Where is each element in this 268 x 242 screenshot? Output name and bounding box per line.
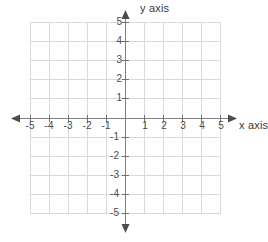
x-axis-arrow-right-icon — [228, 115, 237, 123]
x-tick-label-pos1: 1 — [137, 120, 153, 131]
x-tick-label-neg1: -1 — [98, 120, 114, 131]
x-tick-label-pos4: 4 — [194, 120, 210, 131]
y-tick-label-pos4: 4 — [108, 35, 122, 46]
coordinate-plane-figure: y axis x axis -5 -4 -3 -2 -1 1 2 3 4 5 5… — [0, 0, 268, 242]
y-tick-label-neg3: -3 — [105, 169, 119, 180]
y-tick-label-neg1: -1 — [105, 131, 119, 142]
y-axis-label: y axis — [140, 2, 169, 14]
y-tick-label-pos1: 1 — [108, 92, 122, 103]
x-tick-label-neg2: -2 — [79, 120, 95, 131]
x-tick-label-pos2: 2 — [156, 120, 172, 131]
y-axis-arrow-up-icon — [122, 10, 130, 19]
y-tick-label-pos2: 2 — [108, 73, 122, 84]
x-axis-label: x axis — [239, 119, 268, 131]
x-tick-label-neg5: -5 — [22, 120, 38, 131]
y-tick-label-pos3: 3 — [108, 54, 122, 65]
y-tick-label-neg2: -2 — [105, 150, 119, 161]
x-tick-label-neg3: -3 — [60, 120, 76, 131]
y-axis-arrow-down-icon — [122, 224, 130, 233]
x-tick-label-pos3: 3 — [175, 120, 191, 131]
x-tick-label-neg4: -4 — [41, 120, 57, 131]
y-tick-label-pos5: 5 — [108, 16, 122, 27]
x-tick-label-pos5: 5 — [213, 120, 229, 131]
x-axis-arrow-left-icon — [11, 115, 20, 123]
y-tick-label-neg4: -4 — [105, 188, 119, 199]
y-tick-label-neg5: -5 — [105, 207, 119, 218]
